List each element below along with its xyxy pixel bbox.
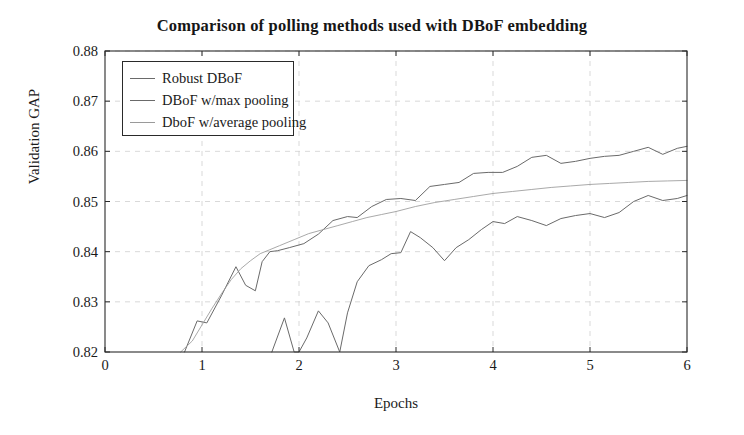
legend-item-robust-dbof: Robust DBoF — [130, 67, 242, 89]
series-line — [181, 180, 687, 352]
legend-item-dbof-max-pooling: DBoF w/max pooling — [130, 89, 288, 111]
legend-label: Robust DBoF — [162, 71, 242, 86]
series-line — [272, 195, 687, 352]
series-line — [185, 146, 687, 352]
legend-label: DBoF w/max pooling — [162, 93, 288, 108]
legend-line-swatch-icon — [130, 122, 155, 123]
legend-label: DboF w/average pooling — [162, 115, 306, 130]
plot-area — [0, 0, 744, 435]
legend-item-dbof-average-pooling: DboF w/average pooling — [130, 111, 306, 133]
chart-legend: Robust DBoF DBoF w/max pooling DboF w/av… — [122, 61, 294, 136]
legend-line-swatch-icon — [130, 100, 155, 101]
chart-figure: Comparison of polling methods used with … — [0, 0, 744, 435]
legend-line-swatch-icon — [130, 78, 155, 79]
